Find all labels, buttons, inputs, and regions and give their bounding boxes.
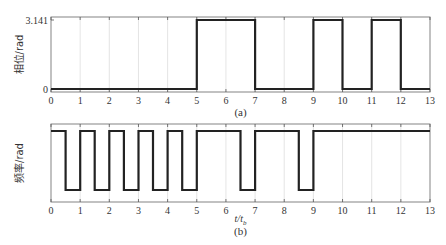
x-tick-label: 8 [282, 95, 287, 106]
x-tick-label: 13 [425, 95, 435, 106]
phase-chart-panel: 01234567891011121303.141相位/rad(a) [13, 15, 435, 120]
x-tick-label: 1 [78, 95, 83, 106]
x-tick-label: 5 [194, 95, 199, 106]
x-tick-label: 4 [165, 95, 170, 106]
plot-frame [51, 17, 430, 92]
figure: 01234567891011121303.141相位/rad(a) 012345… [0, 0, 446, 245]
x-tick-label: 3 [136, 95, 141, 106]
x-tick-label: 9 [311, 205, 316, 216]
y-axis-label: 频率/rad [13, 143, 25, 183]
x-tick-label: 7 [253, 205, 258, 216]
panel-caption: (a) [234, 106, 247, 119]
x-tick-label: 6 [223, 205, 228, 216]
x-tick-label: 8 [282, 205, 287, 216]
x-tick-label: 7 [253, 95, 258, 106]
x-tick-label: 13 [425, 205, 435, 216]
x-tick-label: 12 [396, 205, 406, 216]
x-tick-label: 0 [49, 205, 54, 216]
x-tick-label: 2 [107, 95, 112, 106]
x-tick-label: 9 [311, 95, 316, 106]
x-tick-label: 11 [367, 95, 377, 106]
x-tick-label: 10 [338, 95, 348, 106]
x-tick-label: 11 [367, 205, 377, 216]
x-tick-label: 10 [338, 205, 348, 216]
x-tick-label: 5 [194, 205, 199, 216]
y-tick-label: 3.141 [26, 15, 49, 26]
x-tick-label: 2 [107, 205, 112, 216]
x-tick-label: 4 [165, 205, 170, 216]
frequency-chart-panel: 012345678910111213频率/radt/tb(b) [13, 124, 435, 238]
x-tick-label: 12 [396, 95, 406, 106]
x-tick-label: 3 [136, 205, 141, 216]
x-tick-label: 6 [223, 95, 228, 106]
signal-line [51, 131, 430, 190]
x-tick-label: 0 [49, 95, 54, 106]
y-tick-label: 0 [43, 84, 48, 95]
x-tick-label: 1 [78, 205, 83, 216]
signal-line [51, 20, 430, 89]
y-axis-label: 相位/rad [13, 35, 25, 75]
panel-caption: (b) [234, 225, 247, 238]
